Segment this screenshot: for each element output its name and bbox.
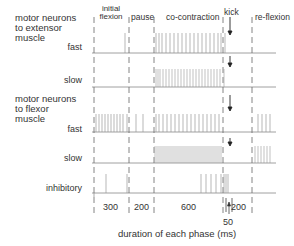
kick-arrows [228,17,232,146]
spikes-inhibitory [106,174,228,193]
spikes-extensor-slow [156,69,224,87]
spikes-flexor-slow [155,146,270,163]
spikes-flexor-fast [96,114,270,132]
firing-pattern-diagram [0,0,294,246]
spikes-extensor-fast [125,33,225,53]
kick-duration-marker [226,198,232,214]
